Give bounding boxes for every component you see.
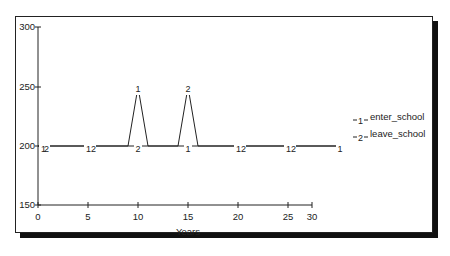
- legend-label: leave_school: [370, 128, 425, 139]
- baseline-markers: 1 2 1 2 2 1 1 2 1 2 1: [39, 143, 344, 154]
- x-tick-label: 30: [307, 211, 318, 222]
- chart-canvas: 300 250 200 150 0 5 10 15 20 25 30 Years…: [0, 0, 450, 256]
- baseline-marker: 1: [185, 144, 190, 154]
- legend-item-leave-school: 2 leave_school: [353, 128, 425, 143]
- y-tick-label: 200: [19, 140, 35, 151]
- legend-item-enter-school: 1 enter_school: [353, 111, 424, 126]
- legend: 1 enter_school 2 leave_school: [353, 111, 425, 143]
- x-tick-label: 0: [35, 211, 40, 222]
- y-tick-label: 150: [19, 199, 35, 210]
- baseline-marker: 2: [241, 144, 246, 154]
- baseline-marker: 2: [135, 144, 140, 154]
- legend-label: enter_school: [370, 111, 424, 122]
- legend-marker: 2: [358, 133, 363, 143]
- x-tick-label: 15: [183, 211, 194, 222]
- y-tick-label: 250: [19, 81, 35, 92]
- peak-marker: 1: [135, 84, 140, 94]
- baseline-marker: 2: [91, 144, 96, 154]
- peak-marker: 2: [185, 84, 190, 94]
- x-axis-title: Years: [176, 226, 200, 237]
- y-tick-label: 300: [19, 21, 35, 32]
- x-tick-label: 20: [233, 211, 244, 222]
- baseline-marker: 2: [291, 144, 296, 154]
- x-tick-label: 25: [283, 211, 294, 222]
- series-leave-school: [38, 87, 340, 146]
- baseline-marker: 1: [337, 144, 342, 154]
- x-tick-label: 5: [85, 211, 90, 222]
- baseline-marker: 2: [44, 144, 49, 154]
- legend-marker: 1: [358, 116, 363, 126]
- x-tick-label: 10: [133, 211, 144, 222]
